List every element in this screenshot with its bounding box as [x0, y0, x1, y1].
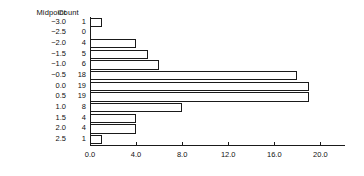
histogram-row: 1.08	[0, 102, 364, 113]
count-value: 4	[58, 113, 86, 124]
count-value: 19	[58, 81, 86, 92]
histogram-bar	[90, 39, 136, 48]
x-axis-tick-label: 8.0	[162, 150, 202, 159]
x-axis-tick-label: 20.0	[300, 150, 340, 159]
histogram-row: −0.518	[0, 70, 364, 81]
histogram-figure: Midpoint Count −3.01−2.50−2.04−1.55−1.06…	[0, 0, 364, 176]
midpoint-value: −2.5	[6, 27, 66, 38]
x-axis-tick	[182, 142, 183, 146]
histogram-bar	[90, 114, 136, 123]
midpoint-value: 2.5	[6, 134, 66, 145]
histogram-bar	[90, 60, 159, 69]
count-value: 0	[58, 27, 86, 38]
histogram-row: −1.55	[0, 49, 364, 60]
count-value: 1	[58, 134, 86, 145]
histogram-row: −2.04	[0, 38, 364, 49]
x-axis-tick	[274, 142, 275, 146]
count-value: 19	[58, 91, 86, 102]
midpoint-value: −0.5	[6, 70, 66, 81]
count-value: 1	[58, 17, 86, 28]
count-value: 8	[58, 102, 86, 113]
count-value: 18	[58, 70, 86, 81]
x-axis-tick-label: 12.0	[208, 150, 248, 159]
histogram-bar	[90, 135, 102, 144]
histogram-bar	[90, 92, 309, 101]
midpoint-value: −1.5	[6, 49, 66, 60]
histogram-bar	[90, 71, 297, 80]
x-axis-tick-label: 4.0	[116, 150, 156, 159]
x-axis-tick	[90, 142, 91, 146]
x-axis-tick	[136, 142, 137, 146]
count-value: 4	[58, 38, 86, 49]
histogram-bar	[90, 18, 102, 27]
midpoint-value: −2.0	[6, 38, 66, 49]
histogram-bar	[90, 50, 148, 59]
histogram-bar	[90, 103, 182, 112]
midpoint-value: 1.0	[6, 102, 66, 113]
midpoint-value: 0.0	[6, 81, 66, 92]
midpoint-value: 2.0	[6, 123, 66, 134]
y-axis-line	[90, 17, 91, 146]
x-axis-line	[90, 145, 345, 146]
x-axis-tick-label: 0.0	[70, 150, 110, 159]
histogram-bar	[90, 124, 136, 133]
midpoint-value: 1.5	[6, 113, 66, 124]
count-value: 4	[58, 123, 86, 134]
x-axis-tick	[320, 142, 321, 146]
histogram-row: −1.06	[0, 60, 364, 71]
histogram-row: 0.019	[0, 81, 364, 92]
count-value: 6	[58, 59, 86, 70]
midpoint-value: −1.0	[6, 59, 66, 70]
histogram-bar	[90, 82, 309, 91]
count-value: 5	[58, 49, 86, 60]
histogram-row: −3.01	[0, 17, 364, 28]
midpoint-value: −3.0	[6, 17, 66, 28]
histogram-row: 2.04	[0, 124, 364, 135]
histogram-row: 1.54	[0, 113, 364, 124]
histogram-row: 0.519	[0, 92, 364, 103]
histogram-row: −2.50	[0, 28, 364, 39]
midpoint-value: 0.5	[6, 91, 66, 102]
x-axis-tick	[228, 142, 229, 146]
x-axis-tick-label: 16.0	[254, 150, 294, 159]
